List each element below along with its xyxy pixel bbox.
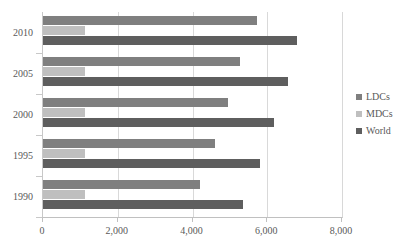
legend-label: MDCs	[366, 108, 393, 119]
bar-mdcs-2010	[43, 26, 85, 35]
bar-group-2000	[43, 94, 342, 135]
y-axis-label-1990: 1990	[0, 192, 33, 202]
bar-ldcs-2000	[43, 98, 228, 107]
y-axis-label-2005: 2005	[0, 69, 33, 79]
bar-group-2005	[43, 53, 342, 94]
plot-area	[42, 12, 343, 218]
legend-swatch-icon	[356, 128, 362, 134]
legend-swatch-icon	[356, 94, 362, 100]
bar-group-1990	[43, 176, 342, 217]
bar-world-2005	[43, 77, 288, 86]
legend-label: World	[366, 125, 391, 136]
legend-swatch-icon	[356, 111, 362, 117]
x-axis-label-2000: 2,000	[93, 225, 141, 236]
bar-mdcs-1990	[43, 190, 85, 199]
chart-legend: LDCsMDCsWorld	[356, 88, 403, 139]
bar-mdcs-2000	[43, 108, 85, 117]
bar-ldcs-1990	[43, 180, 200, 189]
bar-chart: 20102005200019951990 02,0004,0006,0008,0…	[0, 0, 403, 246]
bar-ldcs-1995	[43, 139, 215, 148]
y-axis-label-2000: 2000	[0, 110, 33, 120]
bar-mdcs-2005	[43, 67, 85, 76]
bar-world-2000	[43, 118, 274, 127]
x-axis-label-8000: 8,000	[317, 225, 365, 236]
legend-item-mdcs[interactable]: MDCs	[356, 105, 403, 122]
bar-ldcs-2005	[43, 57, 240, 66]
bar-world-1990	[43, 200, 243, 209]
legend-label: LDCs	[366, 91, 390, 102]
bar-ldcs-2010	[43, 16, 257, 25]
bar-group-2010	[43, 12, 342, 53]
x-axis-label-0: 0	[18, 225, 66, 236]
y-axis-label-2010: 2010	[0, 28, 33, 38]
legend-item-ldcs[interactable]: LDCs	[356, 88, 403, 105]
x-axis-label-6000: 6,000	[242, 225, 290, 236]
bar-world-1995	[43, 159, 260, 168]
x-axis-tick	[341, 218, 342, 222]
x-axis-tick	[117, 218, 118, 222]
legend-item-world[interactable]: World	[356, 122, 403, 139]
bar-world-2010	[43, 36, 297, 45]
bar-mdcs-1995	[43, 149, 85, 158]
x-axis-label-4000: 4,000	[168, 225, 216, 236]
bar-group-1995	[43, 135, 342, 176]
x-axis-tick	[42, 218, 43, 222]
x-axis-tick	[266, 218, 267, 222]
x-axis-tick	[192, 218, 193, 222]
y-axis-label-1995: 1995	[0, 151, 33, 161]
